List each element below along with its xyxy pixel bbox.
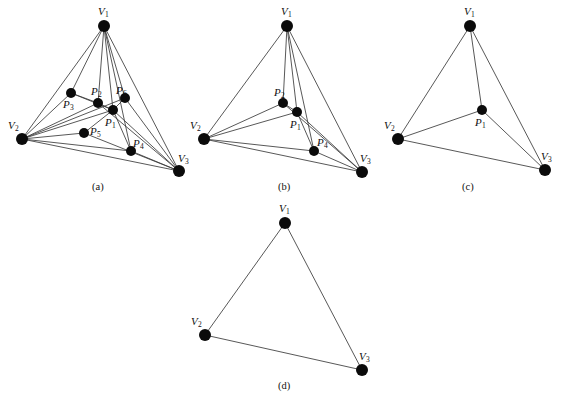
graph-edge <box>205 335 362 370</box>
graph-edge <box>204 26 287 139</box>
point-label-p1: P1 <box>290 119 301 131</box>
graph-edge <box>398 26 470 139</box>
graph-edge <box>22 26 104 139</box>
label-subscript: 4 <box>140 142 144 151</box>
graph-node-p1 <box>477 105 487 115</box>
label-base: P <box>91 85 98 97</box>
graph-edge <box>398 139 545 170</box>
label-subscript: 3 <box>70 103 74 112</box>
label-base: P <box>475 116 482 128</box>
graph-node-p1 <box>292 107 302 117</box>
vertex-label-v3: V3 <box>360 153 371 165</box>
graph-edge <box>205 223 285 335</box>
label-subscript: 2 <box>98 90 102 99</box>
vertex-label-v3: V3 <box>178 153 189 165</box>
label-subscript: 1 <box>471 10 475 19</box>
graph-node-p5 <box>79 128 89 138</box>
graph-node-v2 <box>392 133 404 145</box>
label-base: P <box>133 137 140 149</box>
point-label-p1: P1 <box>475 117 486 129</box>
graph-edge <box>287 26 297 112</box>
label-base: V <box>384 119 391 131</box>
graph-node-v1 <box>281 20 293 32</box>
graph-node-v3 <box>356 364 368 376</box>
label-subscript: 5 <box>97 130 101 139</box>
panel-caption-a: (a) <box>92 182 104 193</box>
point-label-p6: P6 <box>116 85 127 97</box>
label-subscript: 2 <box>198 320 202 329</box>
label-subscript: 2 <box>281 91 285 100</box>
label-base: V <box>359 350 366 362</box>
label-subscript: 2 <box>391 124 395 133</box>
graph-edge <box>285 223 362 370</box>
vertex-label-v2: V2 <box>8 120 19 132</box>
vertex-label-v1: V1 <box>464 6 475 18</box>
graph-node-v3 <box>539 164 551 176</box>
vertex-label-v1: V1 <box>281 6 292 18</box>
label-base: V <box>279 202 286 214</box>
label-subscript: 3 <box>367 157 371 166</box>
graph-node-v1 <box>464 20 476 32</box>
vertex-label-v2: V2 <box>191 316 202 328</box>
graph-edge <box>470 26 545 170</box>
label-base: P <box>116 84 123 96</box>
graph-edge <box>71 26 104 93</box>
panel-caption-d: (d) <box>278 381 290 392</box>
graph-node-p2 <box>93 98 103 108</box>
label-subscript: 2 <box>15 124 19 133</box>
label-base: V <box>190 119 197 131</box>
label-subscript: 4 <box>324 141 328 150</box>
nodes-layer <box>16 20 551 376</box>
point-label-p3: P3 <box>63 99 74 111</box>
vertex-label-v2: V2 <box>384 120 395 132</box>
graph-edge <box>22 139 179 171</box>
graph-edge <box>204 139 362 172</box>
vertex-label-v1: V1 <box>98 6 109 18</box>
vertex-label-v3: V3 <box>541 151 552 163</box>
label-base: P <box>105 116 112 128</box>
graph-edge <box>314 151 362 172</box>
graph-node-p3 <box>66 88 76 98</box>
vertex-label-v3: V3 <box>359 351 370 363</box>
point-label-p4: P4 <box>317 137 328 149</box>
graph-edge <box>204 139 314 151</box>
graph-node-v3 <box>173 165 185 177</box>
graph-node-v1 <box>98 20 110 32</box>
label-base: V <box>464 5 471 17</box>
label-base: P <box>90 125 97 137</box>
figure-root: V1V2V3P1P2P3P4P5P6(a)V1V2V3P1P2P4(b)V1V2… <box>0 0 562 405</box>
point-label-p5: P5 <box>90 126 101 138</box>
graph-edge <box>113 110 179 171</box>
graph-node-v2 <box>199 329 211 341</box>
graph-edge <box>482 110 545 170</box>
vertex-label-v1: V1 <box>279 203 290 215</box>
panel-caption-b: (b) <box>278 182 290 193</box>
label-base: P <box>63 98 70 110</box>
label-subscript: 1 <box>112 121 116 130</box>
graph-edge <box>204 112 297 139</box>
graph-edge <box>104 26 113 110</box>
label-subscript: 2 <box>197 124 201 133</box>
panel-caption-c: (c) <box>462 182 474 193</box>
label-subscript: 1 <box>297 123 301 132</box>
graph-edge <box>287 26 314 151</box>
point-label-p1: P1 <box>105 117 116 129</box>
label-subscript: 1 <box>286 207 290 216</box>
label-base: V <box>281 5 288 17</box>
vertex-label-v2: V2 <box>190 120 201 132</box>
edges-layer <box>22 26 545 370</box>
label-subscript: 1 <box>288 10 292 19</box>
graph-edge <box>287 26 362 172</box>
label-subscript: 1 <box>105 10 109 19</box>
graph-node-v3 <box>356 166 368 178</box>
label-subscript: 3 <box>548 155 552 164</box>
label-base: V <box>191 315 198 327</box>
graph-node-p1 <box>108 105 118 115</box>
label-base: P <box>317 136 324 148</box>
point-label-p2: P2 <box>274 87 285 99</box>
label-base: V <box>541 150 548 162</box>
label-base: P <box>290 118 297 130</box>
graph-node-v2 <box>198 133 210 145</box>
label-subscript: 3 <box>366 355 370 364</box>
label-base: V <box>98 5 105 17</box>
